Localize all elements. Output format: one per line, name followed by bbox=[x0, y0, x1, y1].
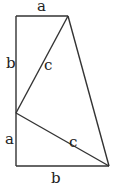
label-bottom-b: b bbox=[51, 169, 61, 185]
label-top-a: a bbox=[37, 0, 46, 15]
label-left-b: b bbox=[6, 54, 16, 72]
label-lower-a: a bbox=[5, 130, 14, 148]
hypotenuse-lower-c bbox=[16, 113, 109, 166]
label-upper-c: c bbox=[44, 56, 52, 74]
label-lower-c: c bbox=[69, 133, 77, 151]
pythagorean-diagram: a b c a c b bbox=[0, 0, 117, 185]
hypotenuse-upper-c bbox=[16, 16, 68, 113]
